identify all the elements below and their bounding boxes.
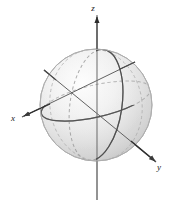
figure-canvas: z x y <box>0 0 190 207</box>
sphere-axes-figure: z x y <box>0 0 190 207</box>
y-axis-label: y <box>156 162 161 172</box>
z-axis-label: z <box>90 3 95 13</box>
y-axis-arrow-segment <box>131 141 155 161</box>
x-axis-label: x <box>10 113 15 123</box>
